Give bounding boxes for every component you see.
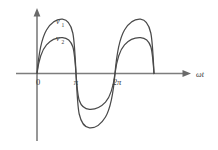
waveform-chart: 0 π 2π ωt v 1 v 2 xyxy=(0,0,218,150)
y-axis-arrowhead xyxy=(34,8,41,17)
curve-label-v1-subscript: 1 xyxy=(62,22,65,28)
curve-terminal-drop xyxy=(154,31,159,74)
curve-label-v1: v xyxy=(56,17,60,26)
x-tick-label-0: 0 xyxy=(36,77,40,87)
curve-label-v1-group: v 1 xyxy=(56,17,65,28)
x-tick-label-2pi: 2π xyxy=(113,77,122,87)
x-axis-arrowhead xyxy=(183,70,192,77)
waveform-figure: 0 π 2π ωt v 1 v 2 xyxy=(0,0,218,150)
x-tick-label-pi: π xyxy=(74,77,79,87)
curve-label-v2-group: v 2 xyxy=(56,34,65,45)
x-axis-title: ωt xyxy=(196,70,205,79)
curve-label-v2: v xyxy=(56,34,60,43)
curve-label-v2-subscript: 2 xyxy=(62,39,65,45)
